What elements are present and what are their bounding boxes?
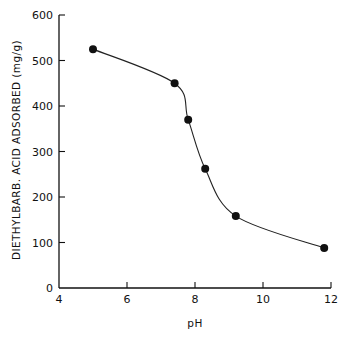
y-tick-label: 0 bbox=[46, 282, 53, 295]
x-tick-label: 10 bbox=[256, 293, 270, 306]
data-point bbox=[89, 45, 97, 53]
y-tick-label: 200 bbox=[32, 191, 53, 204]
data-point bbox=[171, 79, 179, 87]
y-tick-label: 600 bbox=[32, 9, 53, 22]
data-point bbox=[201, 165, 209, 173]
data-point bbox=[184, 116, 192, 124]
y-axis-label: DIETHYLBARB. ACID ADSORBED (mg/g) bbox=[10, 40, 22, 260]
x-tick-label: 4 bbox=[56, 293, 63, 306]
series-curve bbox=[93, 49, 324, 248]
y-ticks: 0100200300400500600 bbox=[32, 9, 65, 295]
x-tick-label: 12 bbox=[324, 293, 338, 306]
x-axis-label: pH bbox=[187, 317, 202, 329]
data-point bbox=[232, 212, 240, 220]
data-point bbox=[320, 244, 328, 252]
x-ticks: 4681012 bbox=[56, 282, 339, 306]
y-tick-label: 500 bbox=[32, 55, 53, 68]
data-points bbox=[89, 45, 328, 252]
y-tick-label: 100 bbox=[32, 237, 53, 250]
axes bbox=[59, 15, 331, 288]
x-tick-label: 8 bbox=[192, 293, 199, 306]
y-tick-label: 300 bbox=[32, 146, 53, 159]
y-tick-label: 400 bbox=[32, 100, 53, 113]
chart: 0100200300400500600 4681012 pH DIETHYLBA… bbox=[0, 0, 346, 340]
x-tick-label: 6 bbox=[124, 293, 131, 306]
